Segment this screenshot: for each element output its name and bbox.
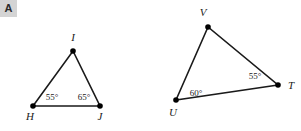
triangle-uvt: U V T 60° 55° (169, 6, 295, 118)
angle-label-j: 65° (78, 92, 91, 102)
vertex-dot-h (30, 103, 36, 109)
geometry-diagram: H I J 55° 65° U V T 60° 55° (0, 0, 301, 131)
vertex-label-v: V (200, 6, 208, 18)
angle-label-u: 60° (190, 88, 203, 98)
vertex-label-t: T (288, 79, 295, 91)
vertex-label-h: H (25, 110, 35, 122)
vertex-label-j: J (98, 110, 104, 122)
vertex-dot-u (173, 97, 179, 103)
vertex-dot-v (205, 24, 211, 30)
vertex-dot-t (275, 82, 281, 88)
vertex-label-i: I (70, 31, 76, 43)
vertex-label-u: U (169, 106, 178, 118)
triangle-hij: H I J 55° 65° (25, 31, 104, 122)
angle-label-h: 55° (46, 92, 59, 102)
vertex-dot-j (97, 103, 103, 109)
vertex-dot-i (70, 48, 76, 54)
angle-label-t: 55° (249, 71, 262, 81)
